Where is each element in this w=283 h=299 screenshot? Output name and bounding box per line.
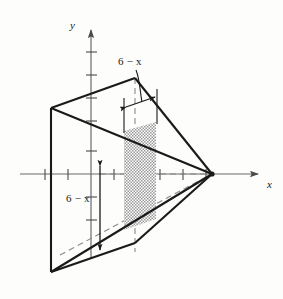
apex-point [209, 171, 214, 176]
shaded-cross-section [124, 122, 156, 230]
x-axis-label: x [267, 178, 272, 190]
y-axis-label: y [70, 19, 75, 31]
cross-section-height-label: 6 − x [66, 192, 90, 204]
figure-container: 6 − x 6 − x x y [0, 0, 283, 299]
edge-top-back [51, 78, 135, 108]
width-arrow [126, 97, 155, 107]
solid-of-revolution-diagram [0, 0, 283, 299]
cross-section-width-label: 6 − x [118, 55, 142, 67]
